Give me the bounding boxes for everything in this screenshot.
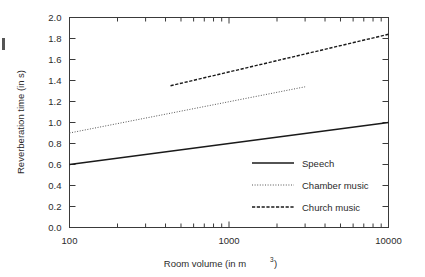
- x-tick-label: 1000: [218, 235, 239, 246]
- legend-label-church-music: Church music: [302, 202, 360, 213]
- y-tick-label: 1.6: [48, 54, 61, 65]
- legend-label-speech: Speech: [302, 158, 334, 169]
- y-tick-label: 0.6: [48, 159, 61, 170]
- x-axis-title-base: Room volume (in m: [164, 258, 246, 269]
- y-tick-label: 1.2: [48, 96, 61, 107]
- chart-figure: 0.00.20.40.60.81.01.21.41.61.82.0 100100…: [0, 0, 425, 277]
- legend-label-chamber-music: Chamber music: [302, 180, 369, 191]
- y-axis-title: Reverberation time (in s): [15, 70, 26, 174]
- reverberation-time-line-chart: 0.00.20.40.60.81.01.21.41.61.82.0 100100…: [0, 0, 425, 277]
- y-tick-label: 1.0: [48, 117, 61, 128]
- y-tick-label: 2.0: [48, 12, 61, 23]
- x-axis-title-tail: ): [274, 258, 277, 269]
- y-tick-label: 0.0: [48, 222, 61, 233]
- left-edge-artifact: [2, 38, 5, 50]
- y-tick-label: 1.4: [48, 75, 61, 86]
- x-tick-label: 100: [62, 235, 78, 246]
- y-tick-label: 0.4: [48, 180, 61, 191]
- y-tick-label: 0.8: [48, 138, 61, 149]
- x-tick-label: 10000: [375, 235, 401, 246]
- y-tick-label: 0.2: [48, 201, 61, 212]
- y-tick-label: 1.8: [48, 33, 61, 44]
